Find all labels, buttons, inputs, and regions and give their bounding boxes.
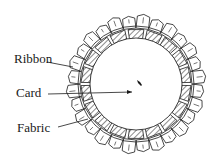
card-segment bbox=[128, 30, 144, 39]
ribbon-label: Ribbon bbox=[14, 52, 52, 65]
card-segment bbox=[128, 130, 144, 139]
fabric-label: Fabric bbox=[17, 121, 50, 134]
card-label: Card bbox=[16, 86, 41, 99]
ring-diagram bbox=[0, 0, 215, 167]
inner-edge bbox=[90, 38, 182, 130]
